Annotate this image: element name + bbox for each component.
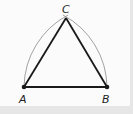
label-c: C [62,3,70,16]
segment-ca [24,18,66,87]
segment-bc [66,18,107,87]
label-a: A [18,93,27,106]
vertex-b-dot [105,85,110,90]
triangle-diagram: C A B [0,0,133,114]
label-b: B [102,93,110,106]
vertex-a-dot [22,85,27,90]
